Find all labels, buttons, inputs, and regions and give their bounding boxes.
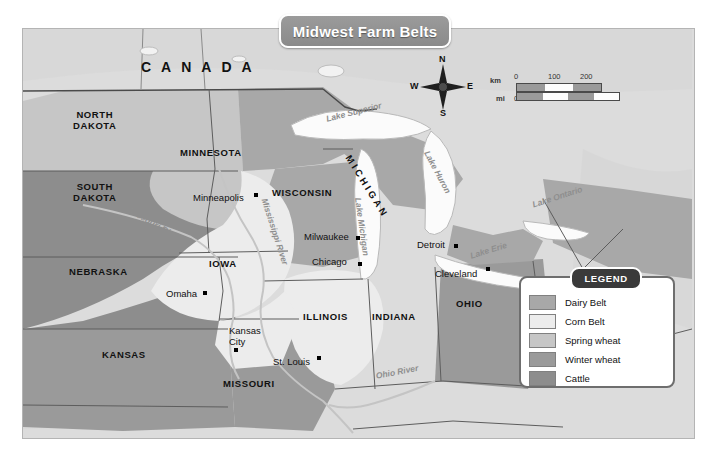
legend-item-cattle[interactable]: Cattle	[529, 371, 590, 385]
compass-east-label: E	[467, 81, 473, 91]
label-ohio: OHIO	[456, 298, 483, 309]
legend-swatch-spring-wheat	[529, 333, 556, 348]
compass-rose: N E S W	[410, 56, 476, 118]
label-minneapolis: Minneapolis	[193, 193, 244, 204]
legend-swatch-winter-wheat	[529, 352, 556, 367]
label-chicago: Chicago	[312, 257, 347, 268]
scale-km-tick-1: 100	[548, 72, 561, 81]
compass-west-label: W	[410, 81, 419, 91]
label-cleveland: Cleveland	[435, 269, 477, 280]
legend-label-cattle: Cattle	[565, 373, 590, 384]
page-title: Midwest Farm Belts	[293, 23, 437, 40]
label-st-louis: St. Louis	[273, 357, 310, 368]
map-title-banner: Midwest Farm Belts	[279, 14, 451, 48]
citydot-kansas-city	[234, 348, 238, 352]
label-detroit: Detroit	[417, 240, 445, 251]
scale-bar: km 0 100 200 mi 0 100 200	[490, 72, 618, 106]
citydot-milwaukee	[356, 236, 360, 240]
scale-km-unit: km	[490, 76, 501, 85]
label-iowa: IOWA	[209, 258, 237, 269]
citydot-omaha	[203, 291, 207, 295]
legend-label-winter-wheat: Winter wheat	[565, 354, 620, 365]
legend-item-corn-belt[interactable]: Corn Belt	[529, 314, 605, 328]
legend-label-dairy-belt: Dairy Belt	[565, 297, 606, 308]
legend-label-spring-wheat: Spring wheat	[565, 335, 620, 346]
legend-title: LEGEND	[584, 273, 627, 284]
legend-title-tab: LEGEND	[570, 267, 642, 290]
label-kansas: KANSAS	[102, 349, 146, 360]
legend-item-winter-wheat[interactable]: Winter wheat	[529, 352, 620, 366]
legend-item-spring-wheat[interactable]: Spring wheat	[529, 333, 620, 347]
label-indiana: INDIANA	[372, 311, 416, 322]
citydot-chicago	[358, 262, 362, 266]
scale-mi-bar	[516, 92, 620, 101]
label-kansas-city: Kansas City	[229, 326, 261, 347]
label-omaha: Omaha	[166, 289, 197, 300]
scale-km-bar	[516, 83, 602, 92]
compass-south-label: S	[440, 108, 446, 118]
label-canada: CANADA	[141, 59, 262, 75]
label-missouri: MISSOURI	[223, 378, 275, 389]
legend-label-corn-belt: Corn Belt	[565, 316, 605, 327]
label-illinois: ILLINOIS	[303, 311, 348, 322]
scale-km-tick-2: 200	[580, 72, 593, 81]
scale-mi-unit: mi	[496, 94, 505, 103]
legend-swatch-dairy-belt	[529, 295, 556, 310]
label-milwaukee: Milwaukee	[304, 232, 349, 243]
compass-north-label: N	[439, 54, 446, 64]
label-wisconsin: WISCONSIN	[272, 187, 332, 198]
citydot-cleveland	[486, 267, 490, 271]
citydot-detroit	[454, 244, 458, 248]
label-south-dakota: SOUTH DAKOTA	[73, 181, 117, 203]
label-minnesota: MINNESOTA	[180, 147, 242, 158]
map-screenshot: CANADA NORTH DAKOTA SOUTH DAKOTA NEBRASK…	[0, 0, 709, 456]
label-north-dakota: NORTH DAKOTA	[73, 109, 117, 131]
legend-swatch-corn-belt	[529, 314, 556, 329]
citydot-minneapolis	[254, 193, 258, 197]
legend-swatch-cattle	[529, 371, 556, 386]
legend-panel: Dairy Belt Corn Belt Spring wheat Winter…	[519, 276, 675, 388]
legend-item-dairy-belt[interactable]: Dairy Belt	[529, 295, 606, 309]
citydot-st-louis	[317, 356, 321, 360]
label-nebraska: NEBRASKA	[69, 266, 128, 277]
scale-km-tick-0: 0	[514, 72, 518, 81]
